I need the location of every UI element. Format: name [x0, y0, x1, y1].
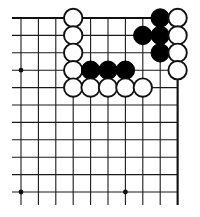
star-point — [19, 190, 24, 195]
black-stone[interactable] — [151, 9, 169, 27]
white-stone[interactable] — [99, 78, 117, 96]
white-stone[interactable] — [64, 26, 82, 44]
grid-lines — [12, 18, 178, 205]
black-stone[interactable] — [81, 61, 99, 79]
white-stone[interactable] — [64, 44, 82, 62]
white-stone[interactable] — [168, 9, 186, 27]
star-point — [19, 68, 24, 73]
white-stone[interactable] — [81, 78, 99, 96]
go-board[interactable] — [0, 0, 200, 217]
white-stone[interactable] — [168, 26, 186, 44]
star-point — [123, 190, 128, 195]
white-stone[interactable] — [168, 61, 186, 79]
white-stone[interactable] — [116, 78, 134, 96]
board-edges — [12, 18, 178, 205]
black-stone[interactable] — [151, 44, 169, 62]
white-stone[interactable] — [64, 9, 82, 27]
white-stone[interactable] — [64, 78, 82, 96]
white-stone[interactable] — [168, 44, 186, 62]
go-board-diagram — [0, 0, 200, 217]
black-stone[interactable] — [151, 26, 169, 44]
black-stone[interactable] — [134, 26, 152, 44]
black-stone[interactable] — [116, 61, 134, 79]
white-stone[interactable] — [134, 78, 152, 96]
white-stone[interactable] — [64, 61, 82, 79]
black-stone[interactable] — [99, 61, 117, 79]
